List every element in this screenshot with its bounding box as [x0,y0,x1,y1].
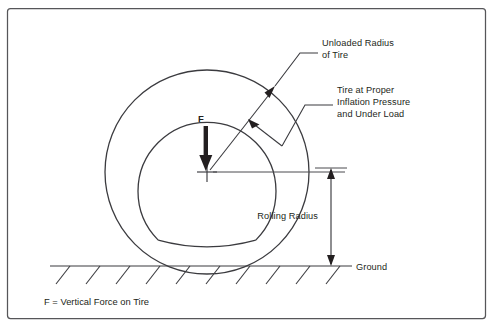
figure-border [8,9,486,319]
unloaded-radius-label-line2: of Tire [322,50,348,60]
ground-label: Ground [356,262,387,272]
tire-diagram-figure: F Unloaded Radius of Tire Tire at Proper… [0,0,494,327]
inflation-label-line1: Tire at Proper [337,85,394,95]
force-label: F [198,113,204,124]
unloaded-radius-leader-tail [275,53,318,86]
ground-hatch-marks [56,266,340,284]
inflation-label-line3: and Under Load [337,109,404,119]
down-arrow-icon [199,126,212,171]
figure-caption: F = Vertical Force on Tire [44,296,149,307]
inflation-pressure-leader [248,105,333,146]
inflation-label-line2: Inflation Pressure [337,97,410,107]
unloaded-radius-leader [210,86,275,170]
inner-tire-contact-patch [158,240,256,247]
diagram-canvas: F Unloaded Radius of Tire Tire at Proper… [0,0,494,327]
unloaded-radius-label-line1: Unloaded Radius [322,38,394,48]
double-arrow-vertical-icon [327,168,335,266]
rolling-radius-label: Rolling Radius [257,211,318,221]
